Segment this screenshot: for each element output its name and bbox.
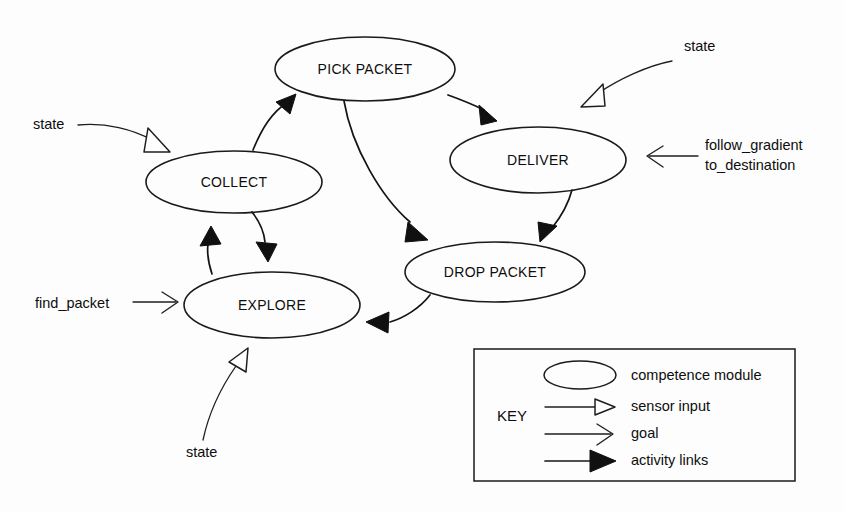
goal-label-find-packet: find_packet: [35, 295, 109, 311]
link-line: [552, 190, 572, 228]
goal-find-packet: find_packet: [35, 292, 178, 313]
activity-link-collect-to-pick-packet: [253, 94, 296, 150]
sensor-line: [600, 61, 672, 92]
activity-link-collect-to-explore: [252, 212, 277, 262]
node-collect[interactable]: COLLECT: [146, 151, 322, 213]
node-deliver[interactable]: DELIVER: [450, 127, 626, 193]
key-legend: KEY competence module sensor input goal: [474, 349, 795, 481]
hollow-arrowhead-icon: [229, 348, 248, 372]
sensor-input-state-explore: state: [186, 348, 248, 460]
key-entry-sensor-input: sensor input: [545, 398, 710, 415]
sensor-input-state-collect: state: [33, 116, 170, 152]
node-drop-packet[interactable]: DROP PACKET: [405, 242, 585, 302]
activity-link-explore-to-collect: [200, 226, 221, 274]
state-diagram: state state state find_packet follow_gra…: [0, 0, 844, 512]
sensor-label-state-collect: state: [33, 116, 64, 132]
node-label-drop-packet: DROP PACKET: [444, 264, 547, 280]
arrowhead-solid-icon: [276, 94, 296, 114]
node-explore[interactable]: EXPLORE: [184, 272, 360, 338]
node-pick-packet[interactable]: PICK PACKET: [275, 37, 455, 101]
arrowhead-solid-icon: [590, 450, 616, 472]
activity-link-drop-packet-to-explore: [366, 295, 430, 333]
hollow-arrowhead-icon: [581, 84, 605, 107]
arrowhead-solid-icon: [366, 312, 389, 333]
goal-label-follow-gradient-line2: to_destination: [705, 157, 795, 173]
arrowhead-solid-icon: [405, 222, 428, 242]
link-line: [344, 101, 410, 222]
sensor-input-state-deliver: state: [581, 38, 715, 107]
key-label-goal: goal: [631, 425, 658, 441]
activity-link-pick-packet-to-drop-packet: [344, 101, 428, 242]
hollow-arrowhead-icon: [144, 128, 170, 152]
goal-follow-gradient: follow_gradient to_destination: [647, 137, 803, 173]
link-line: [208, 244, 212, 274]
key-entry-competence-module: competence module: [544, 361, 762, 389]
arrowhead-solid-icon: [200, 226, 221, 246]
link-line: [253, 102, 288, 150]
competence-module-icon: [544, 361, 616, 389]
key-entry-goal: goal: [545, 424, 658, 445]
diagram-canvas: state state state find_packet follow_gra…: [0, 0, 844, 512]
key-title: KEY: [497, 407, 527, 424]
node-label-collect: COLLECT: [201, 174, 268, 190]
sensor-label-state-deliver: state: [684, 38, 715, 54]
arrowhead-solid-icon: [256, 242, 277, 262]
key-label-sensor-input: sensor input: [631, 398, 710, 414]
hollow-arrowhead-icon: [595, 399, 615, 415]
node-label-deliver: DELIVER: [507, 152, 569, 168]
key-entry-activity-links: activity links: [545, 450, 708, 472]
goal-label-follow-gradient-line1: follow_gradient: [705, 137, 803, 153]
node-label-pick-packet: PICK PACKET: [318, 61, 413, 77]
arrowhead-solid-icon: [479, 105, 497, 125]
link-line: [448, 95, 484, 110]
arrowhead-solid-icon: [538, 222, 557, 242]
activity-link-deliver-to-drop-packet: [538, 190, 572, 242]
link-line: [390, 295, 430, 322]
sensor-line: [78, 124, 152, 140]
key-label-competence-module: competence module: [631, 367, 762, 383]
key-label-activity-links: activity links: [631, 452, 708, 468]
node-label-explore: EXPLORE: [238, 297, 306, 313]
sensor-label-state-explore: state: [186, 444, 217, 460]
sensor-line: [203, 366, 236, 440]
link-line: [252, 212, 265, 242]
activity-link-pick-packet-to-deliver: [448, 95, 497, 125]
